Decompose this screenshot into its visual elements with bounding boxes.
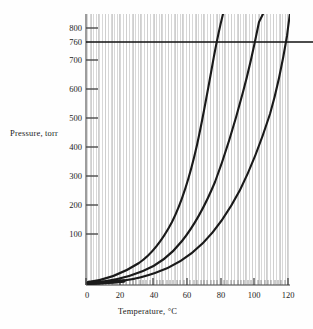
vapor-pressure-chart: Pressure, torr Temperature, °C 800 760 7…	[0, 0, 313, 329]
plot-svg	[0, 0, 313, 329]
curve-origin-cluster	[88, 281, 124, 283]
plot-background	[86, 14, 290, 285]
